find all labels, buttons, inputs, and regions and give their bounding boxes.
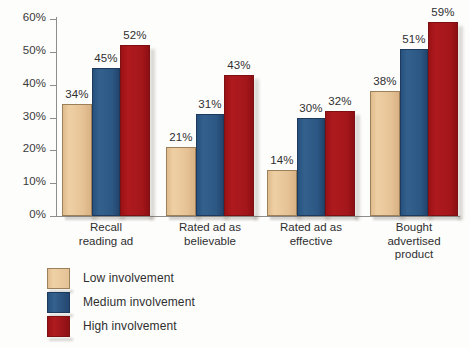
bar: [297, 118, 325, 217]
y-axis-tick: [50, 183, 56, 184]
bar-value-label: 45%: [94, 52, 117, 64]
y-axis-tick: [50, 52, 56, 53]
bar: [196, 114, 224, 216]
bar-value-label: 14%: [270, 154, 293, 166]
bar-shadow: [65, 216, 95, 220]
bar: [267, 170, 297, 216]
bar-side-shadow: [254, 79, 259, 220]
bar: [428, 22, 458, 216]
bar-value-label: 31%: [198, 98, 221, 110]
bar: [224, 75, 254, 216]
bar-shadow: [123, 216, 153, 220]
bar-shadow: [95, 216, 123, 220]
bar-value-label: 30%: [299, 102, 322, 114]
bar-side-shadow: [355, 115, 360, 220]
bar-value-label: 51%: [402, 33, 425, 45]
bar-value-label: 32%: [328, 95, 351, 107]
y-axis-tick-label: 40%: [0, 77, 46, 89]
y-axis-tick: [50, 150, 56, 151]
y-axis-tick: [50, 19, 56, 20]
medium-involvement-swatch: [47, 292, 70, 313]
bar-value-label: 21%: [169, 131, 192, 143]
low-involvement-swatch: [47, 268, 70, 289]
bar-value-label: 59%: [431, 6, 454, 18]
legend-label: Low involvement: [83, 271, 174, 285]
x-axis-category-label: Boughtadvertisedproduct: [387, 221, 440, 262]
y-axis-tick-label: 30%: [0, 110, 46, 122]
x-axis-category-label: Rated ad aseffective: [280, 221, 342, 248]
bar-side-shadow: [458, 26, 463, 220]
bar: [400, 49, 428, 216]
bar: [62, 104, 92, 216]
x-axis-category-label: Recallreading ad: [79, 221, 133, 248]
bar-shadow: [431, 216, 461, 220]
bar-shadow: [227, 216, 257, 220]
bar-chart: 0%10%20%30%40%50%60% 34%45%52%21%31%43%1…: [0, 0, 470, 348]
legend-swatch-shadow: [49, 338, 73, 341]
bar-value-label: 43%: [227, 59, 250, 71]
bar-shadow: [403, 216, 431, 220]
bar: [370, 91, 400, 216]
legend-label: High involvement: [83, 319, 177, 333]
bar-shadow: [169, 216, 199, 220]
bar-side-shadow: [150, 49, 155, 220]
legend-label: Medium involvement: [83, 295, 195, 309]
y-axis-line: [56, 17, 57, 217]
bar-value-label: 52%: [123, 29, 146, 41]
y-axis-tick-label: 0%: [0, 208, 46, 220]
bar-shadow: [270, 216, 300, 220]
bar: [325, 111, 355, 216]
bar-shadow: [373, 216, 403, 220]
y-axis-tick: [50, 85, 56, 86]
bar: [92, 68, 120, 216]
y-axis-tick: [50, 118, 56, 119]
x-axis-category-label: Rated ad asbelievable: [179, 221, 241, 248]
bar: [120, 45, 150, 216]
bar-shadow: [300, 216, 328, 220]
y-axis-tick-label: 50%: [0, 44, 46, 56]
high-involvement-swatch: [47, 316, 70, 337]
bar-shadow: [328, 216, 358, 220]
bar-value-label: 38%: [373, 75, 396, 87]
bar-value-label: 34%: [65, 88, 88, 100]
y-axis-tick-label: 10%: [0, 175, 46, 187]
y-axis-tick-label: 60%: [0, 11, 46, 23]
bar-shadow: [199, 216, 227, 220]
y-axis-tick-label: 20%: [0, 142, 46, 154]
bar: [166, 147, 196, 216]
